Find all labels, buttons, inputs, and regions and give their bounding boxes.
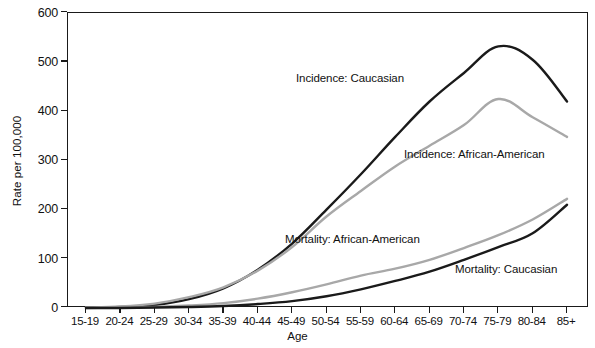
x-axis-tick-mark xyxy=(222,307,223,313)
x-axis-tick-mark xyxy=(497,307,498,313)
y-axis-tick: 400 xyxy=(38,103,67,117)
series-annotation-4: Mortality: Caucasian xyxy=(455,263,557,275)
y-axis-tick-label: 100 xyxy=(38,252,58,266)
x-axis-tick-mark xyxy=(429,307,430,313)
x-axis-tick-mark xyxy=(326,307,327,313)
series-line-2 xyxy=(86,99,567,308)
y-axis-title: Rate per 100,000 xyxy=(11,86,23,236)
x-axis-tick-mark xyxy=(154,307,155,313)
y-axis-tick-label: 600 xyxy=(38,6,58,20)
series-annotation-2: Incidence: African-American xyxy=(404,148,544,160)
series-line-4 xyxy=(86,205,567,308)
x-axis-tick-mark xyxy=(257,307,258,313)
y-axis-tick: 500 xyxy=(38,54,67,68)
x-axis-tick-mark xyxy=(291,307,292,313)
series-annotation-1: Incidence: Caucasian xyxy=(296,72,404,84)
x-axis-tick-mark xyxy=(532,307,533,313)
x-axis-tick-mark xyxy=(463,307,464,313)
y-axis-tick-label: 400 xyxy=(38,104,58,118)
y-axis-tick-label: 500 xyxy=(38,55,58,69)
y-axis-tick: 0 xyxy=(51,300,67,314)
y-axis-tick: 300 xyxy=(38,153,67,167)
x-axis-title: Age xyxy=(0,330,595,342)
x-axis-tick-mark xyxy=(85,307,86,313)
y-axis-tick-label: 200 xyxy=(38,202,58,216)
y-axis-tick: 600 xyxy=(38,5,67,19)
y-axis-tick-label: 300 xyxy=(38,153,58,167)
x-axis-tick-mark xyxy=(188,307,189,313)
x-axis-tick-mark xyxy=(119,307,120,313)
line-chart: 0100200300400500600 Rate per 100,000 15-… xyxy=(0,0,595,348)
x-axis-tick-mark xyxy=(394,307,395,313)
y-axis-tick: 200 xyxy=(38,202,67,216)
x-axis-tick-label: 85+ xyxy=(541,315,591,327)
x-axis-tick-mark xyxy=(566,307,567,313)
x-axis-tick-mark xyxy=(360,307,361,313)
series-annotation-3: Mortality: African-American xyxy=(285,233,420,245)
y-axis-tick: 100 xyxy=(38,251,67,265)
y-axis-tick-label: 0 xyxy=(51,301,58,315)
